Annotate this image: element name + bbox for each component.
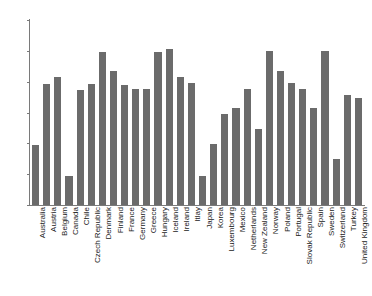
bar[interactable] <box>143 89 150 205</box>
x-tick-label-text: Poland <box>284 207 292 232</box>
x-tick-label-text: Switzerland <box>339 207 347 248</box>
bar[interactable] <box>333 159 340 205</box>
bar-slot[interactable] <box>255 20 262 205</box>
bar-slot[interactable] <box>54 20 61 205</box>
bar-slot[interactable] <box>221 20 228 205</box>
x-tick-label-text: Slovak Republic <box>306 207 314 264</box>
x-tick-label: Canada <box>72 207 80 235</box>
x-tick-label: Belgium <box>61 207 69 236</box>
bar[interactable] <box>88 84 95 205</box>
bar-slot[interactable] <box>65 20 72 205</box>
bar-slot[interactable] <box>277 20 284 205</box>
bar-slot[interactable] <box>333 20 340 205</box>
bar[interactable] <box>310 108 317 205</box>
x-tick-label-text: Ireland <box>183 207 191 231</box>
x-tick-label-text: Korea <box>217 207 225 228</box>
x-tick-label-text: Hungary <box>161 207 169 237</box>
x-tick-label: Japan <box>206 207 214 229</box>
bar-slot[interactable] <box>88 20 95 205</box>
bar[interactable] <box>177 77 184 205</box>
bar[interactable] <box>344 95 351 205</box>
x-tick-label-text: Turkey <box>350 207 358 231</box>
bar[interactable] <box>121 85 128 205</box>
x-tick-label: Sweden <box>328 207 336 236</box>
x-tick-label: France <box>128 207 136 232</box>
bar[interactable] <box>77 90 84 205</box>
x-tick-label: Spain <box>317 207 325 227</box>
bar[interactable] <box>43 84 50 205</box>
bar-slot[interactable] <box>121 20 128 205</box>
bar[interactable] <box>65 176 72 205</box>
bar[interactable] <box>154 52 161 205</box>
x-tick-label: Germany <box>139 207 147 240</box>
x-tick-label-text: Australia <box>39 207 47 238</box>
bar[interactable] <box>32 145 39 205</box>
x-tick-label: Austria <box>50 207 58 232</box>
x-tick-label: Korea <box>217 207 225 228</box>
x-tick-label-text: Spain <box>317 207 325 227</box>
bar[interactable] <box>166 49 173 205</box>
bar-slot[interactable] <box>355 20 362 205</box>
bar[interactable] <box>210 144 217 205</box>
x-tick-label-text: Japan <box>206 207 214 229</box>
x-tick-label-text: Mexico <box>239 207 247 232</box>
bar-slot[interactable] <box>32 20 39 205</box>
bar[interactable] <box>255 129 262 205</box>
bar-slot[interactable] <box>132 20 139 205</box>
x-tick-label: Netherlands <box>250 207 258 250</box>
bar-slot[interactable] <box>232 20 239 205</box>
bar[interactable] <box>232 108 239 205</box>
bar[interactable] <box>199 176 206 205</box>
bar[interactable] <box>277 71 284 205</box>
x-tick-label-text: France <box>128 207 136 232</box>
x-tick-label: Australia <box>39 207 47 238</box>
x-tick-label: Poland <box>284 207 292 232</box>
bar-slot[interactable] <box>143 20 150 205</box>
bar-slot[interactable] <box>77 20 84 205</box>
x-tick-label: Portugal <box>295 207 303 237</box>
bar[interactable] <box>221 114 228 205</box>
bar[interactable] <box>288 83 295 205</box>
bar-slot[interactable] <box>288 20 295 205</box>
bar[interactable] <box>355 98 362 205</box>
bar-slot[interactable] <box>266 20 273 205</box>
x-tick-label: Hungary <box>161 207 169 237</box>
x-tick-label-text: Iceland <box>172 207 180 233</box>
bar-slot[interactable] <box>154 20 161 205</box>
x-tick-label: Czech Republic <box>94 207 102 263</box>
bar-slot[interactable] <box>344 20 351 205</box>
bar-slot[interactable] <box>321 20 328 205</box>
bar-slot[interactable] <box>43 20 50 205</box>
bar-slot[interactable] <box>188 20 195 205</box>
x-axis-tick-labels: AustraliaAustriaBelgiumCanadaChileCzech … <box>30 207 364 296</box>
bar[interactable] <box>54 77 61 205</box>
bar-slot[interactable] <box>210 20 217 205</box>
x-tick-label-text: United Kingdom <box>361 207 369 264</box>
x-tick-label: Norway <box>272 207 280 234</box>
bar[interactable] <box>110 71 117 205</box>
bar[interactable] <box>266 51 273 205</box>
x-tick-label: New Zealand <box>261 207 269 254</box>
x-tick-label-text: Austria <box>50 207 58 232</box>
bar-slot[interactable] <box>299 20 306 205</box>
bar-slot[interactable] <box>177 20 184 205</box>
bar-slot[interactable] <box>244 20 251 205</box>
bar-slot[interactable] <box>166 20 173 205</box>
bar[interactable] <box>299 89 306 205</box>
bar-slot[interactable] <box>310 20 317 205</box>
bar-slot[interactable] <box>99 20 106 205</box>
bar[interactable] <box>99 52 106 205</box>
bar[interactable] <box>244 89 251 205</box>
bar[interactable] <box>132 89 139 205</box>
bar[interactable] <box>188 83 195 205</box>
bar[interactable] <box>321 51 328 205</box>
x-tick-label: Ireland <box>183 207 191 231</box>
bar-chart: 051015202530 AustraliaAustriaBelgiumCana… <box>0 0 372 296</box>
x-tick-label-text: New Zealand <box>261 207 269 254</box>
bar-slot[interactable] <box>110 20 117 205</box>
bar-slot[interactable] <box>199 20 206 205</box>
y-tick-mark <box>27 205 30 206</box>
x-axis-line <box>29 205 365 206</box>
x-tick-label: Switzerland <box>339 207 347 248</box>
x-tick-label: Finland <box>117 207 125 233</box>
